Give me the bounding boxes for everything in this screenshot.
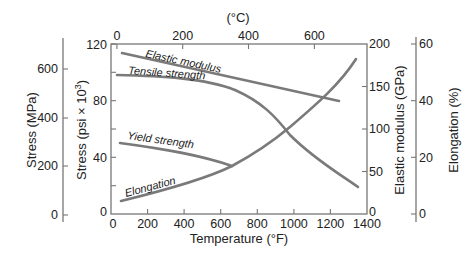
- x2-tick-400: 400: [238, 29, 259, 43]
- mpa-axis-title: Stress (MPa): [24, 92, 39, 168]
- psi-axis-title: Stress (psi × 103): [73, 80, 89, 180]
- mpa-tick-0: 0: [51, 208, 58, 222]
- tensile-strength-curve: [117, 75, 358, 187]
- x2-tick-600: 600: [304, 29, 325, 43]
- elong-tick-40: 40: [419, 94, 433, 108]
- psi-tick-0: 0: [100, 205, 107, 219]
- gpa-tick-100: 100: [369, 122, 390, 136]
- x-tick-0: 0: [110, 217, 117, 231]
- elongation-label: Elongation: [123, 174, 176, 199]
- x-axis-title: Temperature (°F): [190, 231, 288, 246]
- mpa-axis: 600 400 200 0 Stress (MPa): [24, 38, 68, 222]
- mpa-tick-600: 600: [37, 62, 58, 76]
- elongation-axis-title: Elongation (%): [446, 87, 461, 172]
- x2-axis-title: (°C): [226, 10, 249, 25]
- x-tick-1400: 1400: [353, 217, 381, 231]
- elong-tick-0: 0: [419, 207, 426, 221]
- psi-tick-120: 120: [86, 38, 107, 52]
- x-tick-800: 800: [247, 217, 268, 231]
- gpa-axis-title: Elastic modulus (GPa): [392, 65, 407, 194]
- psi-tick-80: 80: [93, 94, 107, 108]
- x2-tick-200: 200: [172, 29, 193, 43]
- x2-tick-0: 0: [113, 29, 120, 43]
- gpa-axis: 200 150 100 50 0 Elastic modulus (GPa): [362, 37, 407, 219]
- x-tick-400: 400: [174, 217, 195, 231]
- elongation-axis: 60 40 20 0 Elongation (%): [411, 37, 461, 222]
- elong-tick-20: 20: [419, 151, 433, 165]
- psi-tick-40: 40: [93, 151, 107, 165]
- gpa-tick-0: 0: [369, 205, 376, 219]
- x-tick-200: 200: [137, 217, 158, 231]
- yield-strength-label: Yield strength: [127, 129, 195, 150]
- mpa-tick-200: 200: [37, 159, 58, 173]
- gpa-tick-50: 50: [369, 165, 383, 179]
- gpa-tick-150: 150: [369, 80, 390, 94]
- mpa-tick-400: 400: [37, 111, 58, 125]
- x-tick-600: 600: [210, 217, 231, 231]
- elong-tick-60: 60: [419, 37, 433, 51]
- gpa-tick-200: 200: [369, 37, 390, 51]
- chart: 600 400 200 0 Stress (MPa) Stress (psi ×…: [0, 0, 466, 254]
- x-tick-1200: 1200: [316, 217, 344, 231]
- x2-axis: 0 200 400 600 (°C): [113, 10, 324, 49]
- x-tick-1000: 1000: [280, 217, 308, 231]
